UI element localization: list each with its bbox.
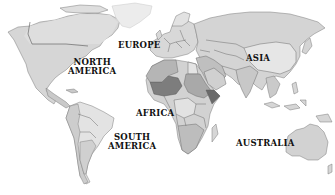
label-asia: ASIA <box>246 54 270 63</box>
label-africa: AFRICA <box>136 109 174 118</box>
label-australia-text: AUSTRALIA <box>236 139 294 148</box>
southern-africa-region <box>178 124 204 154</box>
new-zealand-island <box>328 164 332 174</box>
caribbean-islands <box>66 89 78 93</box>
philippines-islands <box>292 82 298 94</box>
label-asia-text: ASIA <box>246 54 270 63</box>
argentina-region <box>80 140 96 174</box>
label-europe: EUROPE <box>118 41 160 50</box>
label-africa-text: AFRICA <box>136 109 174 118</box>
new-guinea-island <box>316 114 332 122</box>
canada-region <box>24 14 118 44</box>
label-south-america-line2: AMERICA <box>108 142 156 151</box>
arctic-islands <box>60 5 108 13</box>
label-north-america: NORTH AMERICA <box>68 58 116 76</box>
label-europe-text: EUROPE <box>118 41 160 50</box>
label-south-america: SOUTH AMERICA <box>108 133 156 151</box>
southeast-asia-landmass <box>266 76 280 98</box>
madagascar-island <box>212 124 218 142</box>
egypt-region <box>188 62 198 74</box>
label-north-america-line2: AMERICA <box>68 67 116 76</box>
label-australia: AUSTRALIA <box>236 139 294 148</box>
indonesia-islands <box>264 100 306 110</box>
world-map <box>0 0 335 195</box>
